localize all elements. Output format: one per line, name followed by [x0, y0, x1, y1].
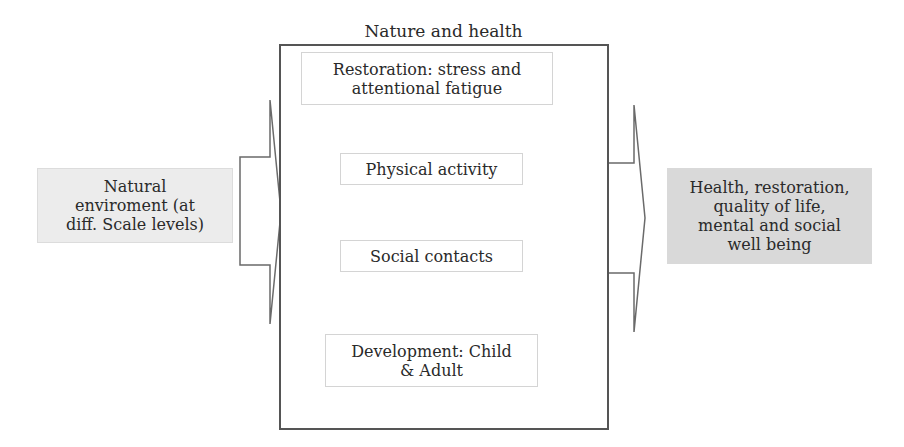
input-line: enviroment (at [66, 196, 204, 215]
mechanism-physical-activity-box: Physical activity [340, 153, 523, 185]
input-line: Natural [66, 177, 204, 196]
output-line: mental and social [689, 216, 849, 235]
input-natural-environment-box: Natural enviroment (at diff. Scale level… [37, 168, 233, 243]
mechanism-social-contacts-box: Social contacts [340, 240, 523, 272]
input-arrow-icon [240, 100, 281, 324]
output-line: Health, restoration, [689, 178, 849, 197]
mechanism-line: Restoration: stress and [333, 60, 521, 79]
mechanism-line: Physical activity [366, 160, 498, 179]
output-health-box: Health, restoration, quality of life, me… [667, 168, 872, 264]
mechanism-restoration-box: Restoration: stress and attentional fati… [301, 52, 553, 105]
mechanism-line: attentional fatigue [333, 79, 521, 98]
mechanism-line: & Adult [351, 361, 512, 380]
mechanism-line: Development: Child [351, 342, 512, 361]
output-line: quality of life, [689, 197, 849, 216]
diagram-title: Nature and health [279, 20, 608, 42]
mechanism-development-box: Development: Child & Adult [325, 334, 538, 387]
mechanism-line: Social contacts [370, 247, 493, 266]
output-arrow-icon [608, 105, 645, 332]
input-line: diff. Scale levels) [66, 215, 204, 234]
output-line: well being [689, 235, 849, 254]
